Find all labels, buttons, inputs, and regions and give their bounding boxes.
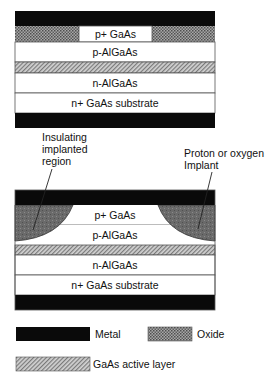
legend-active-label: GaAs active layer bbox=[93, 358, 176, 370]
callout-proton-implant: Proton or oxygen Implant bbox=[184, 147, 264, 171]
top-active-layer bbox=[15, 62, 215, 73]
bottom-device: p+ GaAs p-AlGaAs n-AlGaAs n+ GaAs substr… bbox=[15, 169, 215, 310]
bottom-p-algaas-label: p-AlGaAs bbox=[93, 229, 138, 241]
top-p-plus-label: p+ GaAs bbox=[95, 28, 136, 40]
top-metal-contact bbox=[15, 11, 215, 26]
bottom-active-layer bbox=[15, 245, 215, 255]
callout-left-line-1: Insulating bbox=[42, 131, 87, 143]
bottom-p-plus-label: p+ GaAs bbox=[94, 209, 135, 221]
bottom-n-algaas-label: n-AlGaAs bbox=[93, 259, 138, 271]
legend-metal-swatch bbox=[16, 327, 90, 341]
legend: Metal Oxide GaAs active layer bbox=[16, 327, 225, 371]
callout-right-line-1: Proton or oxygen bbox=[184, 147, 264, 159]
bottom-bottom-metal-contact bbox=[15, 295, 215, 310]
legend-oxide-label: Oxide bbox=[197, 328, 225, 340]
callout-left-line-3: region bbox=[42, 155, 71, 167]
top-n-algaas-label: n-AlGaAs bbox=[93, 77, 138, 89]
legend-active-swatch bbox=[16, 357, 90, 371]
callout-left-line-2: implanted bbox=[42, 143, 88, 155]
top-bottom-metal-contact bbox=[15, 113, 215, 128]
callout-right-line-2: Implant bbox=[184, 159, 219, 171]
top-p-algaas-label: p-AlGaAs bbox=[93, 46, 138, 58]
top-oxide-left bbox=[15, 26, 79, 42]
bottom-substrate-label: n+ GaAs substrate bbox=[71, 279, 158, 291]
top-device: p+ GaAs p-AlGaAs n-AlGaAs n+ GaAs substr… bbox=[15, 11, 215, 128]
laser-structure-diagram: p+ GaAs p-AlGaAs n-AlGaAs n+ GaAs substr… bbox=[0, 0, 274, 386]
callout-insulating-region: Insulating implanted region bbox=[42, 131, 88, 167]
legend-oxide-swatch bbox=[148, 327, 192, 341]
top-oxide-right bbox=[152, 26, 215, 42]
legend-metal-label: Metal bbox=[95, 328, 121, 340]
top-substrate-label: n+ GaAs substrate bbox=[71, 97, 158, 109]
